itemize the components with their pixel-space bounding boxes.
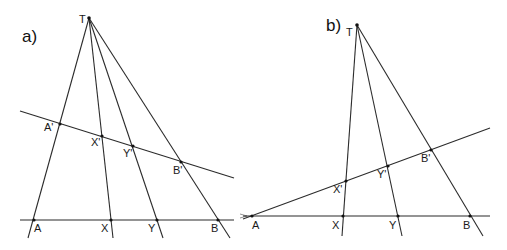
point-X-prime-b bbox=[344, 179, 347, 182]
label-B-prime-a: B' bbox=[173, 164, 182, 176]
diagram-b: b) T X' Y' B' A X Y bbox=[243, 16, 490, 236]
label-X-prime-b: X' bbox=[333, 183, 342, 195]
label-B-b: B bbox=[463, 219, 470, 231]
ray-TX-b bbox=[342, 25, 357, 236]
label-T-b: T bbox=[346, 26, 353, 38]
label-Y-b: Y bbox=[389, 219, 397, 231]
label-Y-prime-a: Y' bbox=[123, 147, 132, 159]
label-A-a: A bbox=[34, 222, 42, 234]
label-X-b: X bbox=[332, 219, 340, 231]
ray-TA-a bbox=[28, 18, 89, 238]
label-A-b: A bbox=[252, 219, 260, 231]
ray-TB-b bbox=[357, 25, 483, 236]
point-Y-b bbox=[396, 214, 399, 217]
point-A-prime-a bbox=[58, 122, 61, 125]
point-X-a bbox=[109, 218, 112, 221]
point-Y-a bbox=[155, 218, 158, 221]
diagram-a: a) T A' X' Y' B' A bbox=[20, 13, 247, 238]
label-T-a: T bbox=[79, 13, 86, 25]
label-B-prime-b: B' bbox=[421, 152, 430, 164]
panel-label-b: b) bbox=[326, 16, 341, 35]
point-Y-prime-b bbox=[386, 164, 389, 167]
point-T-b bbox=[355, 23, 359, 27]
projective-diagrams: a) T A' X' Y' B' A bbox=[0, 0, 507, 250]
transversal-b bbox=[243, 128, 490, 219]
ray-TY-a bbox=[89, 18, 163, 238]
ray-TY-b bbox=[357, 25, 402, 236]
point-A-b bbox=[250, 214, 253, 217]
ray-TB-a bbox=[89, 18, 230, 238]
panel-label-a: a) bbox=[22, 27, 37, 46]
ray-TX-a bbox=[89, 18, 113, 238]
label-X-a: X bbox=[101, 222, 109, 234]
point-X-b bbox=[341, 214, 344, 217]
label-X-prime-a: X' bbox=[91, 136, 100, 148]
label-Y-prime-b: Y' bbox=[377, 168, 386, 180]
label-B-a: B bbox=[211, 222, 218, 234]
point-B-b bbox=[468, 214, 471, 217]
label-A-prime-a: A' bbox=[44, 121, 53, 133]
point-T-a bbox=[87, 16, 91, 20]
label-Y-a: Y bbox=[148, 222, 156, 234]
point-X-prime-a bbox=[100, 134, 103, 137]
